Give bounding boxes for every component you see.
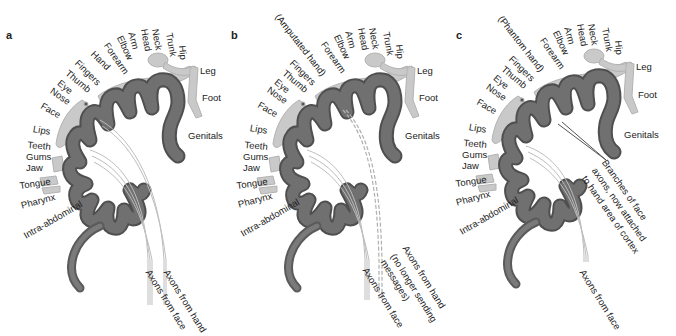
label-neck: Neck <box>368 27 381 50</box>
label-foot: Foot <box>638 90 657 100</box>
label-leg: Leg <box>636 62 652 72</box>
label-foot: Foot <box>202 93 221 103</box>
cortex <box>70 80 178 288</box>
cortex <box>287 80 395 288</box>
label-genitals: Genitals <box>188 131 223 141</box>
label-leg: Leg <box>417 66 433 76</box>
label-neck: Neck <box>151 28 164 51</box>
label-neck: Neck <box>587 23 600 46</box>
label-gums: Gums <box>26 152 51 162</box>
label-hip: Hip <box>395 44 406 59</box>
label-genitals: Genitals <box>405 131 440 141</box>
label-jaw: Jaw <box>243 163 260 173</box>
label-teeth: Teeth <box>463 138 487 149</box>
label-lips: Lips <box>468 122 487 134</box>
label-teeth: Teeth <box>244 140 268 151</box>
label-teeth: Teeth <box>27 140 51 151</box>
label-gums: Gums <box>243 152 268 162</box>
label-foot: Foot <box>419 93 438 103</box>
label-hip: Hip <box>614 40 625 55</box>
label-leg: Leg <box>200 66 216 76</box>
label-gums: Gums <box>462 150 487 160</box>
panel-b: b (Amputated hand) Finge <box>225 0 450 336</box>
label-lips: Lips <box>32 124 51 136</box>
label-genitals: Genitals <box>624 130 659 140</box>
panel-c: c (Phantom hand) Fingers <box>450 0 675 336</box>
label-jaw: Jaw <box>462 161 479 171</box>
label-lips: Lips <box>249 123 268 135</box>
panel-a: a Hand Fingers <box>0 0 225 336</box>
label-hip: Hip <box>178 45 189 60</box>
label-jaw: Jaw <box>26 163 43 173</box>
